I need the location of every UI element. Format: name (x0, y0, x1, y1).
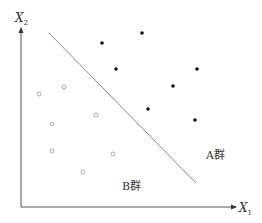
filled-dot-icon (140, 31, 144, 35)
hollow-circle-icon (94, 113, 98, 117)
group-b-points (37, 85, 115, 174)
group-a-points (100, 31, 199, 122)
hollow-circle-icon (50, 149, 54, 153)
hollow-circle-icon (111, 152, 115, 156)
group-a-label: A群 (205, 148, 225, 162)
filled-dot-icon (195, 67, 199, 71)
y-axis-label: X2 (14, 11, 28, 27)
hollow-circle-icon (62, 85, 66, 89)
x-axis-label: X1 (238, 201, 252, 217)
filled-dot-icon (100, 41, 104, 45)
filled-dot-icon (146, 107, 150, 111)
hollow-circle-icon (37, 92, 41, 96)
diagram-svg: X2 X1 A群 B群 (0, 0, 262, 223)
decision-boundary-line (49, 33, 196, 183)
hollow-circle-icon (50, 122, 54, 126)
filled-dot-icon (193, 118, 197, 122)
filled-dot-icon (171, 84, 175, 88)
scatter-classification-diagram: X2 X1 A群 B群 (0, 0, 262, 223)
hollow-circle-icon (81, 170, 85, 174)
filled-dot-icon (114, 67, 118, 71)
group-b-label: B群 (122, 179, 141, 193)
